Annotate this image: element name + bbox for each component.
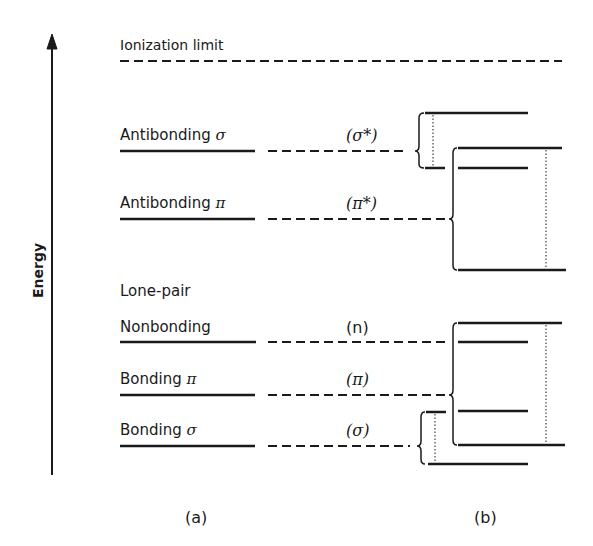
energy-axis-label: Energy [30,243,46,298]
sigma-star-group [415,113,528,168]
n-pi-group [449,323,565,445]
level-symbol-sigma-star: (σ*) [346,128,377,144]
sigma-group [417,412,528,464]
greek-symbol: σ [186,421,196,439]
ionization-limit-label: Ionization limit [120,38,223,52]
panel-label-b: (b) [474,508,497,527]
level-name: Bonding [120,370,182,388]
energy-level-diagram [0,0,593,546]
arrow-up-icon [47,34,57,49]
greek-symbol: π [216,194,226,212]
level-symbol-n: (n) [346,320,369,336]
level-name: Antibonding [120,126,211,144]
panel-label-a: (a) [185,508,207,527]
greek-symbol: π [186,370,196,388]
level-symbol-pi: (π) [346,372,369,388]
level-label-antibonding-sigma: Antibonding σ [120,128,226,143]
level-label-bonding-sigma: Bonding σ [120,423,197,438]
level-label-lone-pair: Lone-pair [120,284,190,299]
level-label-nonbonding: Nonbonding [120,320,211,335]
level-label-bonding-pi: Bonding π [120,372,196,387]
energy-axis [47,34,57,475]
greek-symbol: σ [216,126,226,144]
pi-star-group [449,148,566,270]
level-name: Antibonding [120,194,211,212]
level-label-antibonding-pi: Antibonding π [120,196,225,211]
level-name: Bonding [120,421,182,439]
level-symbol-pi-star: (π*) [346,196,377,212]
level-symbol-sigma: (σ) [346,423,369,439]
